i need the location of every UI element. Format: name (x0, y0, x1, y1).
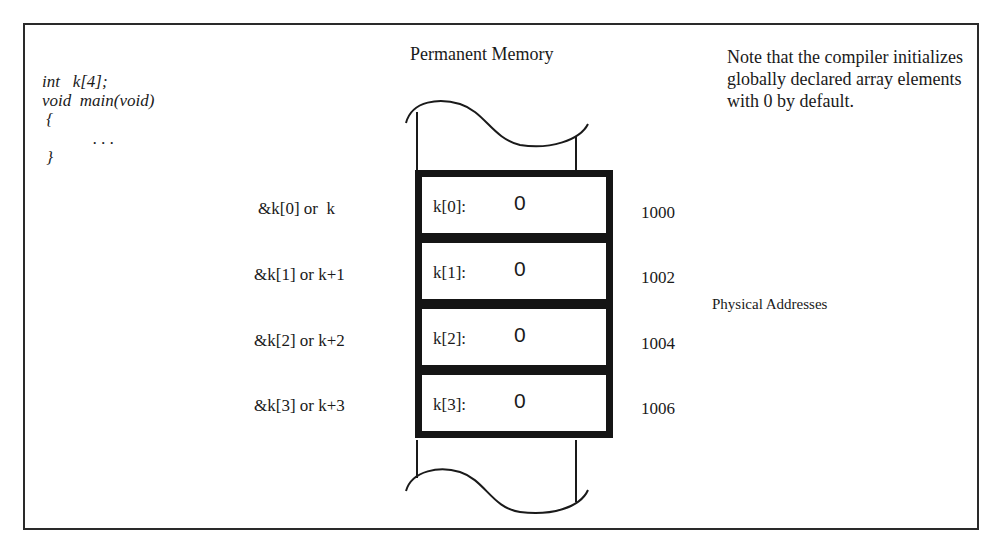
memory-cell: k[1]: 0 (415, 236, 613, 306)
memory-cell: k[0]: 0 (415, 170, 613, 240)
cell-label: k[2]: (433, 329, 466, 349)
pointer-label: &k[0] or k (258, 199, 335, 219)
cell-value: 0 (514, 389, 526, 413)
physical-address: 1006 (641, 399, 675, 419)
physical-address: 1000 (641, 203, 675, 223)
cell-value: 0 (514, 257, 526, 281)
cell-label: k[1]: (433, 263, 466, 283)
pointer-label: &k[2] or k+2 (254, 331, 345, 351)
memory-cells: k[0]: 0 k[1]: 0 k[2]: 0 k[3]: 0 (415, 170, 613, 442)
memory-cell: k[2]: 0 (415, 302, 613, 372)
cell-value: 0 (514, 191, 526, 215)
cell-label: k[0]: (433, 197, 466, 217)
pointer-label: &k[1] or k+1 (254, 265, 345, 285)
cell-value: 0 (514, 323, 526, 347)
physical-address: 1002 (641, 268, 675, 288)
memory-cell: k[3]: 0 (415, 368, 613, 438)
cell-label: k[3]: (433, 395, 466, 415)
physical-address: 1004 (641, 334, 675, 354)
pointer-label: &k[3] or k+3 (254, 396, 345, 416)
